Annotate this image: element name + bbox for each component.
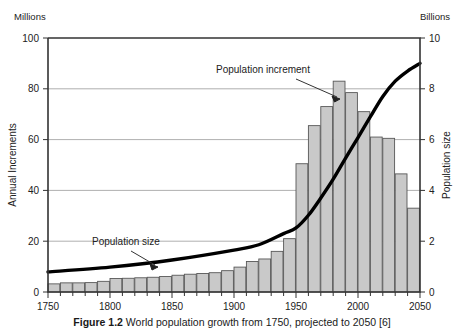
bar xyxy=(60,283,72,292)
tick-label: 2050 xyxy=(409,301,432,312)
bar xyxy=(395,174,407,292)
tick-label: 1950 xyxy=(285,301,308,312)
bar xyxy=(110,279,122,292)
bar xyxy=(246,262,258,292)
right-axis-unit-label: Billions xyxy=(420,11,450,22)
bar xyxy=(370,137,382,292)
bar xyxy=(48,284,60,292)
tick-label: 8 xyxy=(429,83,435,94)
bar xyxy=(321,107,333,292)
bar xyxy=(147,277,159,292)
bar xyxy=(85,283,97,292)
bar xyxy=(271,251,283,292)
tick-label: 4 xyxy=(429,185,435,196)
bar xyxy=(209,273,221,292)
right-axis-title: Population size xyxy=(441,131,452,199)
annotation-increment-arrow-line xyxy=(296,79,337,97)
bar xyxy=(284,239,296,292)
figure-caption: Figure 1.2 World population growth from … xyxy=(0,316,464,328)
tick-label: 1800 xyxy=(99,301,122,312)
tick-label: 1900 xyxy=(223,301,246,312)
bar xyxy=(184,274,196,292)
left-axis-title: Annual Increments xyxy=(7,123,18,206)
bar xyxy=(333,81,345,292)
tick-label: 0 xyxy=(33,287,39,298)
figure-container: Millions Billions 0204060801000246810175… xyxy=(0,0,464,330)
tick-label: 20 xyxy=(28,236,40,247)
bar xyxy=(234,267,246,292)
bar-series-population-increment xyxy=(48,81,419,292)
tick-label: 60 xyxy=(28,134,40,145)
bar xyxy=(383,138,395,292)
tick-label: 2 xyxy=(429,236,435,247)
bar xyxy=(346,93,358,292)
annotation-population-size: Population size xyxy=(92,236,160,247)
caption-text: World population growth from 1750, proje… xyxy=(126,316,391,328)
tick-label: 80 xyxy=(28,83,40,94)
bar xyxy=(259,259,271,292)
tick-label: 40 xyxy=(28,185,40,196)
tick-label: 100 xyxy=(22,33,39,44)
bar xyxy=(222,271,234,292)
bar xyxy=(197,273,209,292)
bar xyxy=(122,278,134,292)
annotation-population-increment: Population increment xyxy=(216,64,310,75)
tick-label: 2000 xyxy=(347,301,370,312)
bar xyxy=(135,278,147,292)
population-growth-chart: Millions Billions 0204060801000246810175… xyxy=(0,0,464,330)
bar xyxy=(408,208,420,292)
bar xyxy=(358,112,370,292)
tick-label: 10 xyxy=(429,33,441,44)
left-axis-unit-label: Millions xyxy=(14,11,46,22)
bar xyxy=(172,275,184,292)
tick-label: 1850 xyxy=(161,301,184,312)
tick-label: 0 xyxy=(429,287,435,298)
bar xyxy=(98,281,110,292)
bar xyxy=(160,277,172,292)
tick-label: 6 xyxy=(429,134,435,145)
tick-label: 1750 xyxy=(37,301,60,312)
caption-label: Figure 1.2 xyxy=(73,316,123,328)
bar xyxy=(73,283,85,292)
